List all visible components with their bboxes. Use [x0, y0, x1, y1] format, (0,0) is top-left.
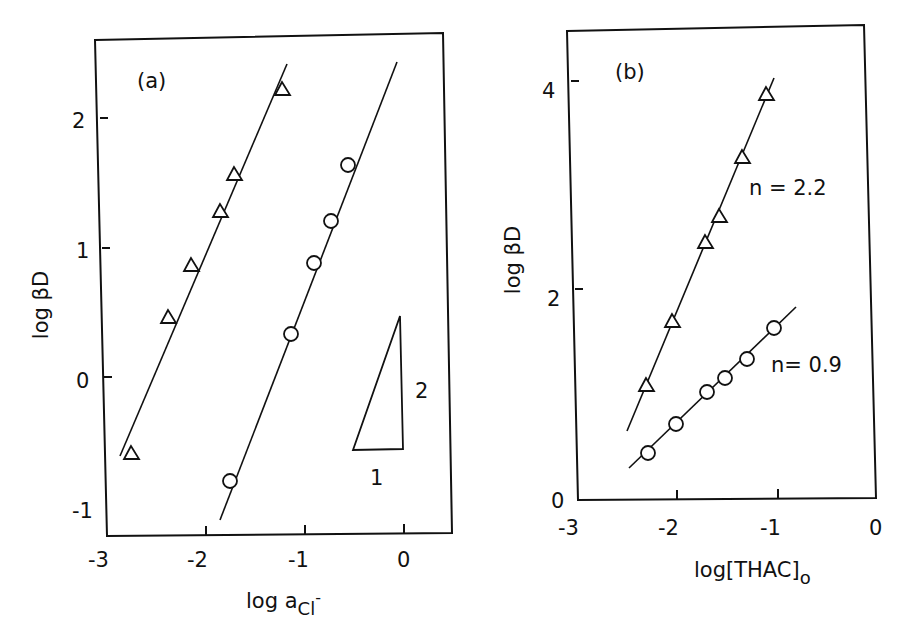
data-point-triangle: [124, 446, 139, 459]
data-point-triangle: [639, 378, 654, 391]
panel-a-fit-line-triangles: [120, 64, 287, 456]
panel-b-xtick: 0: [869, 516, 882, 540]
panel-a-label: (a): [137, 69, 166, 93]
data-point-triangle: [161, 310, 176, 323]
panel-b-xtick: -3: [558, 516, 579, 540]
data-point-circle: [284, 327, 298, 341]
figure: 2 1 0 -1 -3 -2 -1 0 log βD log aCl- (a): [0, 0, 899, 623]
data-point-circle: [700, 385, 714, 399]
panel-a-ytick: 1: [76, 239, 89, 263]
data-point-triangle: [184, 258, 199, 271]
data-point-circle: [641, 446, 655, 460]
panel-a-xtick: 0: [397, 548, 410, 572]
panel-b-x-ticks: [677, 489, 778, 499]
panel-a-y-axis-title: log βD: [29, 271, 53, 339]
data-point-circle: [324, 214, 338, 228]
panel-b: 4 2 0 -3 -2 -1 0 log βD log[THAC]o (b): [501, 25, 882, 588]
data-point-circle: [718, 371, 732, 385]
panel-b-label: (b): [615, 60, 645, 84]
panel-a-xtick: -2: [187, 548, 208, 572]
data-point-triangle: [665, 314, 680, 327]
panel-a-ytick: 0: [76, 369, 89, 393]
series-annotation-n22: n = 2.2: [749, 176, 827, 200]
panel-b-frame: [567, 25, 876, 500]
panel-b-ytick: 4: [542, 79, 555, 103]
panel-b-xtick: -1: [760, 516, 781, 540]
data-point-circle: [223, 474, 237, 488]
data-point-circle: [341, 158, 355, 172]
data-point-circle: [767, 321, 781, 335]
panel-a-frame: [95, 33, 452, 536]
data-point-circle: [740, 352, 754, 366]
panel-a-fit-line-circles: [220, 62, 397, 520]
slope-rise-label: 2: [415, 379, 428, 403]
series-annotation-n09: n= 0.9: [771, 353, 842, 377]
panel-a-xtick: -3: [88, 548, 109, 572]
panel-b-ytick: 0: [551, 489, 564, 513]
data-point-triangle: [735, 150, 750, 163]
panel-a-x-axis-title: log aCl-: [246, 588, 321, 619]
data-point-circle: [307, 256, 321, 270]
panel-b-ytick: 2: [547, 287, 560, 311]
data-point-triangle: [712, 209, 727, 222]
panel-a: 2 1 0 -1 -3 -2 -1 0 log βD log aCl- (a): [29, 33, 452, 619]
slope-triangle-icon: [353, 316, 403, 450]
slope-run-label: 1: [370, 466, 383, 490]
data-point-triangle: [759, 87, 774, 100]
panel-a-xtick: -1: [288, 548, 309, 572]
panel-b-fit-line-n22: [627, 78, 774, 431]
panel-b-triangle-series: [639, 87, 774, 391]
panel-a-ytick: -1: [72, 499, 93, 523]
panel-a-ytick: 2: [72, 109, 85, 133]
data-point-circle: [669, 417, 683, 431]
data-point-triangle: [698, 235, 713, 248]
panel-b-xtick: -2: [658, 516, 679, 540]
panel-b-y-axis-title: log βD: [501, 226, 525, 294]
panel-b-x-axis-title: log[THAC]o: [694, 558, 811, 588]
panel-a-circle-series: [223, 158, 355, 488]
